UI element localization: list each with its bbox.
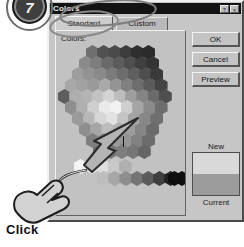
current-color-swatch (193, 174, 239, 195)
ok-button[interactable]: OK (192, 32, 240, 47)
click-action-label: Click (6, 222, 39, 237)
preview-button[interactable]: Preview (192, 72, 240, 87)
palette-hex-swatch[interactable] (153, 171, 166, 186)
close-button[interactable]: × (230, 5, 239, 13)
tab-strip: Standard Custom (55, 16, 186, 30)
palette-hex-swatch[interactable] (108, 171, 121, 186)
colors-dialog: Colors ? × Standard Custom Colors: OK Ca… (47, 0, 244, 222)
standard-tab-panel: Colors: (55, 30, 186, 216)
palette-hex-swatch[interactable] (142, 171, 155, 186)
palette-hex-swatch[interactable] (131, 171, 144, 186)
annotated-screenshot: Colors ? × Standard Custom Colors: OK Ca… (0, 0, 244, 247)
palette-hex-swatch[interactable] (97, 171, 110, 186)
tab-standard[interactable]: Standard (55, 16, 113, 31)
new-color-swatch (193, 153, 239, 174)
colors-label: Colors: (61, 34, 86, 43)
current-color-label: Current (192, 198, 240, 207)
dialog-titlebar[interactable]: Colors ? × (50, 3, 241, 14)
palette-hex-swatch[interactable] (85, 159, 98, 174)
new-color-label: New (192, 142, 240, 151)
palette-hex-swatch[interactable] (119, 171, 132, 186)
tab-custom[interactable]: Custom (116, 17, 168, 30)
titlebar-button-group: ? × (220, 5, 241, 13)
dialog-title: Colors (50, 3, 80, 14)
color-hexagon-palette[interactable] (56, 43, 185, 215)
help-button[interactable]: ? (220, 5, 229, 13)
new-current-preview (192, 152, 240, 196)
cancel-button[interactable]: Cancel (192, 52, 240, 67)
palette-hex-swatch[interactable] (74, 159, 87, 174)
